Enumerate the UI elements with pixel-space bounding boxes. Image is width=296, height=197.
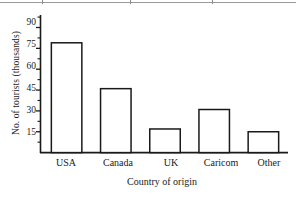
x-tick-label-uk: UK: [146, 157, 196, 169]
x-tick-label-other: Other: [246, 157, 292, 169]
x-axis-title: Country of origin: [36, 176, 288, 187]
x-tick-label-caricom: Caricom: [192, 157, 250, 169]
x-tick-label-usa: USA: [40, 157, 92, 169]
bar-caricom: [199, 110, 230, 153]
bar-canada: [101, 89, 132, 153]
bar-uk: [150, 129, 181, 153]
bar-other: [248, 132, 279, 153]
bar-chart-figure: No. of tourists (thousands) 90 75 60 45 …: [0, 0, 296, 197]
bar-usa: [51, 43, 82, 153]
x-tick-label-canada: Canada: [90, 157, 146, 169]
bar-series: [51, 43, 278, 153]
